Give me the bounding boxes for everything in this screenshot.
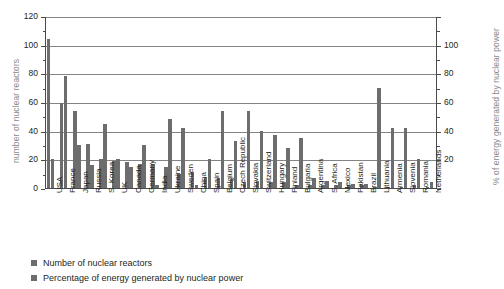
- y-axis-left-line: [45, 17, 46, 189]
- x-axis-label: Finland: [290, 167, 299, 193]
- legend-swatch-icon: [31, 275, 37, 281]
- x-axis-label: Sweden: [186, 164, 195, 193]
- bar-percentage: [129, 167, 133, 189]
- bar-percentage: [260, 131, 264, 188]
- x-axis-label: Slovenia: [408, 162, 417, 193]
- y-tick-label-left: 20: [0, 154, 38, 164]
- legend: Number of nuclear reactors Percentage of…: [31, 255, 243, 285]
- bar-percentage: [221, 111, 225, 188]
- bar-group: [125, 17, 138, 188]
- x-axis-label: Russia: [94, 169, 103, 193]
- x-axis-label: Germany: [147, 160, 156, 193]
- legend-swatch-icon: [31, 260, 37, 266]
- bar-group: [216, 17, 229, 188]
- y-tick-label-left: 40: [0, 126, 38, 136]
- legend-item-percentage: Percentage of energy generated by nuclea…: [31, 270, 243, 285]
- x-axis-label: Hungary: [277, 163, 286, 193]
- y-tick-label-left: 120: [0, 11, 38, 21]
- y-tick-left: [41, 189, 45, 190]
- y-tick-label-right: 80: [444, 68, 453, 78]
- y-tick-label-right: 20: [444, 154, 453, 164]
- bar-percentage: [247, 111, 251, 188]
- bar-percentage: [234, 141, 238, 188]
- bar-percentage: [417, 159, 421, 188]
- y-tick-label-right: 40: [444, 126, 453, 136]
- x-axis-label: France: [68, 168, 77, 193]
- y-tick-label-left: 60: [0, 97, 38, 107]
- x-axis-label: Brazil: [369, 173, 378, 193]
- x-axis-label: S. Africa: [330, 163, 339, 193]
- x-axis-label: China: [199, 172, 208, 193]
- bar-percentage: [51, 159, 55, 188]
- legend-label-percentage: Percentage of energy generated by nuclea…: [43, 273, 243, 283]
- bar-group: [46, 17, 59, 188]
- x-axis-label: Spain: [212, 173, 221, 193]
- bar-percentage: [77, 145, 81, 188]
- x-axis-label: Slovakia: [251, 163, 260, 193]
- y-tick-label-left: 80: [0, 68, 38, 78]
- legend-item-reactors: Number of nuclear reactors: [31, 255, 243, 270]
- bar-group: [294, 17, 307, 188]
- bar-group: [203, 17, 216, 188]
- legend-label-reactors: Number of nuclear reactors: [43, 258, 152, 268]
- x-axis-label: Japan: [81, 171, 90, 193]
- x-axis-label: India: [160, 176, 169, 193]
- x-axis-label: Mexico: [343, 168, 352, 193]
- x-axis-label: Armenia: [395, 163, 404, 193]
- x-axis-label: Netherlands: [434, 150, 443, 193]
- x-axis-label: Belgium: [225, 164, 234, 193]
- bar-percentage: [404, 128, 408, 188]
- y-tick-label-right: 60: [444, 97, 453, 107]
- x-axis-label: Ukraine: [173, 165, 182, 193]
- chart-container: number of nuclear reactors % of energy g…: [0, 0, 504, 289]
- x-axis-label: Argentina: [316, 159, 325, 193]
- y-tick-label-left: 0: [0, 183, 38, 193]
- bar-percentage: [325, 181, 329, 188]
- y-axis-title-right: % of energy generated by nuclear power: [491, 28, 501, 185]
- bar-percentage: [208, 159, 212, 188]
- x-axis-label: S. Korea: [107, 162, 116, 193]
- x-axis-label: USA: [55, 177, 64, 193]
- x-axis-label: Switzerland: [264, 152, 273, 193]
- bar-percentage: [391, 128, 395, 188]
- x-axis-label: Czech Republic: [238, 137, 247, 193]
- x-axis-label: Canada: [134, 165, 143, 193]
- bar-percentage: [64, 76, 68, 188]
- x-axis-label: UK: [120, 182, 129, 193]
- bar-group: [59, 17, 72, 188]
- x-axis-label: Romania: [421, 161, 430, 193]
- bar-group: [72, 17, 85, 188]
- bar-group: [85, 17, 98, 188]
- x-axis-label: Lithuania: [382, 161, 391, 193]
- bar-group: [164, 17, 177, 188]
- bar-group: [190, 17, 203, 188]
- bar-group: [177, 17, 190, 188]
- x-axis-label: Pakistan: [356, 162, 365, 193]
- y-tick-label-right: 100: [444, 40, 458, 50]
- x-axis-label: Bulgaria: [303, 164, 312, 193]
- bar-percentage: [273, 135, 277, 188]
- y-tick-label-left: 100: [0, 40, 38, 50]
